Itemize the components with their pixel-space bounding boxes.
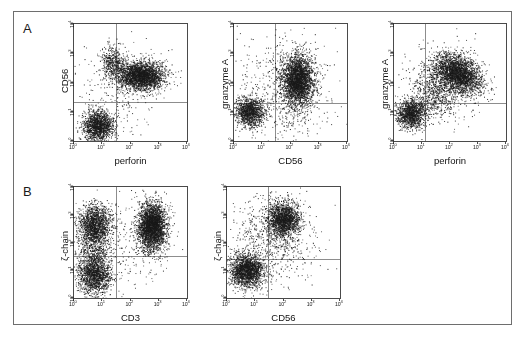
scatter-panel-cd56-perforin: 100100101101102102103103104104perforinCD… — [59, 23, 234, 182]
x-tick-label: 103 — [154, 301, 161, 307]
y-tick-label: 104 — [229, 21, 235, 28]
x-tick-label: 101 — [257, 144, 264, 150]
scatter-panel-zetachain-cd3: 100100101101102102103103104104CD3ζ-chain — [59, 186, 234, 339]
plot-area — [73, 186, 188, 299]
scatter-panel-zetachain-cd56: 100100101101102102103103104104CD56ζ-chai… — [212, 186, 387, 339]
y-axis-title: granzyme A — [379, 58, 390, 108]
y-tick-label: 101 — [229, 108, 235, 115]
y-tick-label: 101 — [389, 108, 395, 115]
scatter-dot-cloud — [234, 24, 348, 142]
y-tick-label: 104 — [222, 184, 228, 191]
scatter-dot-cloud — [227, 187, 341, 299]
plot-area — [393, 23, 507, 142]
x-tick-label: 101 — [97, 144, 104, 150]
y-tick-label: 101 — [69, 108, 75, 115]
x-tick-label: 104 — [501, 144, 508, 150]
x-tick-label: 101 — [417, 144, 424, 150]
x-tick-label: 104 — [335, 301, 342, 307]
x-tick-label: 104 — [182, 144, 189, 150]
scatter-panel-granzymea-cd56: 100100101101102102103103104104CD56granzy… — [219, 23, 394, 182]
scatter-dot-cloud — [74, 24, 188, 142]
x-tick-label: 102 — [445, 144, 452, 150]
y-tick-label: 101 — [69, 267, 75, 274]
panel-letter-a: A — [23, 21, 32, 36]
y-tick-label: 104 — [69, 21, 75, 28]
y-axis-title: granzyme A — [219, 58, 230, 108]
x-tick-label: 103 — [473, 144, 480, 150]
x-axis-title: CD3 — [73, 312, 188, 323]
x-axis-title: CD56 — [233, 155, 348, 166]
y-tick-label: 103 — [229, 50, 235, 57]
y-tick-label: 100 — [69, 295, 75, 302]
x-tick-label: 101 — [97, 301, 104, 307]
figure-panel-container: A B 100100101101102102103103104104perfor… — [13, 11, 512, 325]
x-tick-label: 103 — [314, 144, 321, 150]
scatter-panel-granzymea-perforin: 100100101101102102103103104104perforingr… — [379, 23, 525, 182]
scatter-dot-cloud — [74, 187, 188, 299]
x-tick-label: 104 — [182, 301, 189, 307]
y-tick-label: 104 — [69, 184, 75, 191]
y-axis-title: CD56 — [59, 69, 70, 93]
x-axis-title: perforin — [73, 155, 188, 166]
y-tick-label: 100 — [229, 138, 235, 145]
x-tick-label: 103 — [307, 301, 314, 307]
x-tick-label: 101 — [250, 301, 257, 307]
y-tick-label: 104 — [389, 21, 395, 28]
y-tick-label: 103 — [69, 50, 75, 57]
y-tick-label: 100 — [222, 295, 228, 302]
panel-letter-b: B — [23, 184, 32, 199]
x-axis-title: perforin — [393, 155, 507, 166]
x-tick-label: 102 — [279, 301, 286, 307]
x-axis-title: CD56 — [226, 312, 341, 323]
x-tick-label: 102 — [126, 144, 133, 150]
x-tick-label: 102 — [126, 301, 133, 307]
y-tick-label: 101 — [222, 267, 228, 274]
y-tick-label: 100 — [389, 138, 395, 145]
x-tick-label: 104 — [342, 144, 349, 150]
x-tick-label: 102 — [286, 144, 293, 150]
y-tick-label: 103 — [389, 50, 395, 57]
y-tick-label: 100 — [69, 138, 75, 145]
y-axis-title: ζ-chain — [59, 231, 70, 261]
x-tick-label: 103 — [154, 144, 161, 150]
plot-area — [226, 186, 341, 299]
y-tick-label: 103 — [69, 211, 75, 218]
scatter-dot-cloud — [394, 24, 507, 142]
y-axis-title: ζ-chain — [212, 231, 223, 261]
plot-area — [73, 23, 188, 142]
y-tick-label: 103 — [222, 211, 228, 218]
plot-area — [233, 23, 348, 142]
